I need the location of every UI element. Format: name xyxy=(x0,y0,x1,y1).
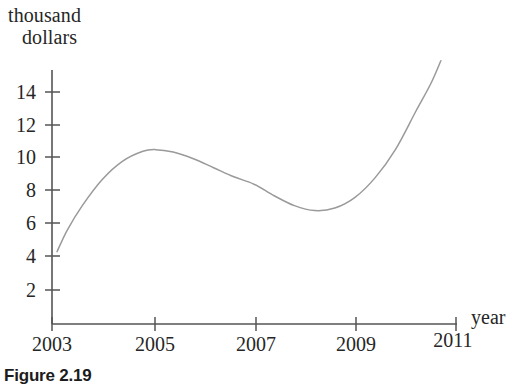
y-tick-label-4: 4 xyxy=(2,245,36,268)
data-series-curve xyxy=(57,61,441,252)
y-axis-title-line2: dollars xyxy=(8,26,81,48)
y-axis-title-line1: thousand xyxy=(8,4,81,26)
x-tick-label-2005: 2005 xyxy=(120,333,190,356)
y-tick-label-12: 12 xyxy=(2,114,36,137)
y-axis-title: thousand dollars xyxy=(8,4,81,49)
x-tick-label-2011: 2011 xyxy=(418,329,488,352)
y-tick-label-8: 8 xyxy=(2,179,36,202)
x-tick-label-2009: 2009 xyxy=(321,333,391,356)
x-axis-title: year xyxy=(471,306,505,328)
x-tick-label-2003: 2003 xyxy=(17,333,87,356)
y-tick-label-10: 10 xyxy=(2,146,36,169)
y-tick-label-14: 14 xyxy=(2,81,36,104)
y-tick-label-2: 2 xyxy=(2,279,36,302)
y-tick-label-6: 6 xyxy=(2,212,36,235)
figure-container: thousand dollars year 14 12 10 8 6 4 2 2… xyxy=(0,0,517,391)
figure-caption: Figure 2.19 xyxy=(4,366,92,386)
x-tick-label-2007: 2007 xyxy=(221,333,291,356)
